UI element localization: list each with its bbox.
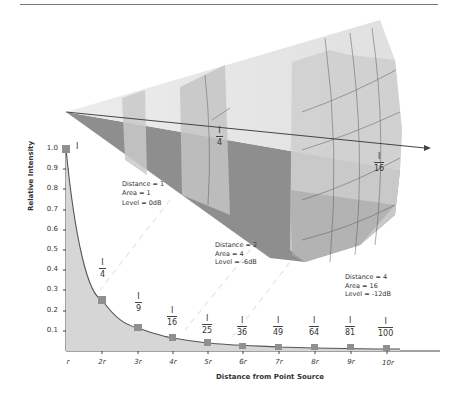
point-label-6: I 36	[237, 316, 247, 337]
y-tick-label: 0.9	[40, 164, 58, 172]
point-label-1: I	[76, 142, 78, 151]
x-tick-label: 5r	[198, 358, 218, 366]
cone-label-quarter: I 4	[216, 126, 223, 147]
annotation-distance-4: Distance = 4 Area = 16 Level = -12dB	[345, 273, 391, 299]
point-label-10: I 100	[378, 317, 393, 338]
x-tick-label: 6r	[233, 358, 253, 366]
y-tick-label: 0.7	[40, 205, 58, 213]
y-tick-label: 0.4	[40, 265, 58, 273]
y-tick-label: 0.5	[40, 245, 58, 253]
y-tick-label: 1.0	[40, 144, 58, 152]
x-tick-label: 3r	[128, 358, 148, 366]
arrow-head-icon	[424, 145, 431, 151]
cone-label-sixteenth: I 16	[374, 152, 384, 173]
y-tick-label: 0.3	[40, 285, 58, 293]
point-label-2: I 4	[99, 258, 106, 279]
x-tick-label: 4r	[163, 358, 183, 366]
x-tick-label: 9r	[341, 358, 361, 366]
x-tick-label: 8r	[305, 358, 325, 366]
x-tick-label: 7r	[269, 358, 289, 366]
cut-off-caption	[20, 385, 432, 391]
y-tick-label: 0.8	[40, 184, 58, 192]
point-label-7: I 49	[273, 316, 283, 337]
slice-1	[122, 90, 147, 175]
y-tick-label: 0.6	[40, 225, 58, 233]
y-tick-label: 0.2	[40, 306, 58, 314]
y-axis-title: Relative Intensity	[27, 141, 35, 211]
x-tick-label: 2r	[92, 358, 112, 366]
annotation-distance-2: Distance = 2 Area = 4 Level = -6dB	[215, 241, 257, 267]
annotation-distance-1: Distance = 1 Area = 1 Level = 0dB	[122, 180, 164, 208]
x-tick-label: 10r	[378, 359, 398, 367]
point-label-8: I 64	[309, 316, 319, 337]
point-label-4: I 16	[167, 306, 177, 327]
point-label-9: I 81	[345, 316, 355, 337]
point-label-3: I 9	[135, 292, 142, 313]
x-axis-title: Distance from Point Source	[216, 373, 324, 381]
y-tick-label: 0.1	[40, 326, 58, 334]
point-label-5: I 25	[202, 314, 212, 335]
x-tick-label: r	[58, 358, 78, 366]
inverse-square-diagram	[0, 0, 452, 398]
